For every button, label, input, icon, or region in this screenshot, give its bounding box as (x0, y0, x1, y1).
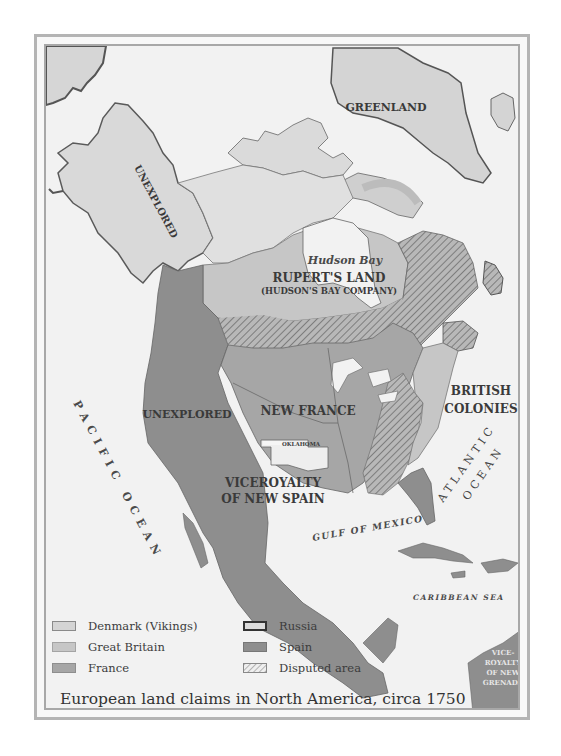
legend-swatch-great-britain (52, 642, 76, 652)
legend-item-france: France (52, 659, 129, 677)
legend-swatch-france (52, 663, 76, 673)
label-hudson-bay: Hudson Bay (307, 254, 384, 267)
label-british-colonies-2: COLONIES (444, 402, 517, 416)
label-oklahoma: OKLAHOMA (282, 441, 321, 447)
legend-label: Great Britain (88, 640, 165, 654)
label-british-colonies-1: BRITISH (451, 384, 511, 398)
siberia-landmass (46, 46, 106, 105)
hispaniola (481, 559, 518, 573)
legend-swatch-spain (243, 642, 267, 652)
iceland-landmass (491, 93, 515, 131)
legend-label: Disputed area (279, 661, 361, 675)
label-new-spain-1: VICEROYALTY (224, 476, 322, 490)
newfoundland (483, 261, 503, 295)
aleutian-islands (49, 189, 63, 193)
label-caribbean-sea: CARIBBEAN SEA (413, 593, 505, 602)
label-west-unexplored: UNEXPLORED (142, 408, 232, 421)
cuba (398, 543, 473, 563)
map-canvas: GREENLAND UNEXPLORED Hudson Bay RUPERT'S… (44, 44, 520, 710)
label-new-granada-1: VICE- (491, 648, 515, 657)
legend-label: France (88, 661, 129, 675)
label-new-granada-4: GRENADA (483, 678, 520, 687)
label-new-granada-2: ROYALTY (485, 658, 520, 667)
legend-item-spain: Spain (243, 638, 312, 656)
north-america-map: GREENLAND UNEXPLORED Hudson Bay RUPERT'S… (46, 46, 520, 710)
label-gulf-of-mexico: GULF OF MEXICO (312, 514, 425, 543)
map-title-caption: European land claims in North America, c… (60, 690, 466, 708)
legend-label: Russia (279, 619, 317, 633)
legend-item-great-britain: Great Britain (52, 638, 165, 656)
legend-item-russia: Russia (243, 617, 317, 635)
alaska-landmass (58, 103, 213, 283)
label-new-france: NEW FRANCE (260, 404, 355, 418)
legend-label: Denmark (Vikings) (88, 619, 197, 633)
legend-item-disputed: Disputed area (243, 659, 361, 677)
legend-swatch-disputed (243, 663, 267, 673)
legend-swatch-denmark (52, 621, 76, 631)
map-legend: Denmark (Vikings) Great Britain France R… (52, 617, 382, 687)
legend-item-denmark: Denmark (Vikings) (52, 617, 197, 635)
label-new-granada-3: OF NEW (486, 668, 519, 677)
label-new-spain-2: OF NEW SPAIN (221, 492, 325, 506)
label-greenland: GREENLAND (345, 101, 427, 114)
jamaica (451, 571, 465, 578)
greenland-landmass (331, 48, 491, 183)
legend-label: Spain (279, 640, 312, 654)
legend-swatch-russia (243, 621, 267, 631)
label-hudsons-bay-company: (HUDSON'S BAY COMPANY) (261, 286, 397, 296)
oklahoma-highlight (263, 441, 283, 445)
label-ruperts-land: RUPERT'S LAND (273, 271, 386, 285)
